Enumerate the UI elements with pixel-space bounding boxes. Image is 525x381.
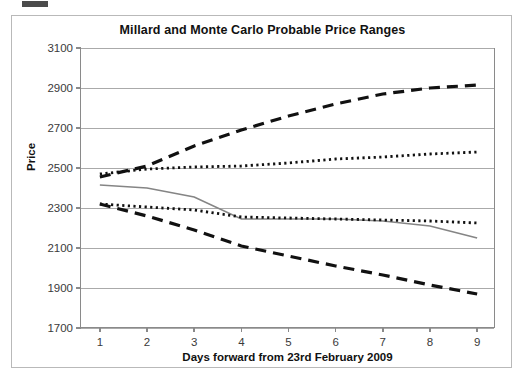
plot-area: 17001900210023002500270029003100 1234567… (80, 48, 495, 328)
series-layer (81, 48, 496, 328)
y-tick-label: 2100 (47, 242, 73, 254)
series-line (100, 185, 477, 238)
y-tick-label: 2300 (47, 202, 73, 214)
chart-title: Millard and Monte Carlo Probable Price R… (12, 23, 513, 37)
x-tick-label: 3 (191, 336, 197, 348)
chart-frame: Millard and Monte Carlo Probable Price R… (11, 15, 512, 368)
series-line (100, 85, 477, 177)
image-artifact-speck (22, 1, 48, 7)
x-tick-label: 4 (238, 336, 244, 348)
x-tick-label: 1 (97, 336, 103, 348)
y-tick-label: 1900 (47, 282, 73, 294)
series-line (100, 204, 477, 294)
x-tick-label: 2 (144, 336, 150, 348)
x-tick-label: 8 (427, 336, 433, 348)
y-axis-label: Price (25, 143, 37, 171)
figure: Millard and Monte Carlo Probable Price R… (0, 0, 525, 381)
x-tick-label: 9 (474, 336, 480, 348)
x-tick-label: 6 (332, 336, 338, 348)
x-axis-label: Days forward from 23rd February 2009 (80, 351, 495, 363)
y-tick-label: 2900 (47, 82, 73, 94)
y-tick-label: 3100 (47, 42, 73, 54)
x-tick-label: 7 (380, 336, 386, 348)
y-tick-label: 2500 (47, 162, 73, 174)
y-tick-label: 2700 (47, 122, 73, 134)
x-tick-label: 5 (285, 336, 291, 348)
y-tick-label: 1700 (47, 322, 73, 334)
